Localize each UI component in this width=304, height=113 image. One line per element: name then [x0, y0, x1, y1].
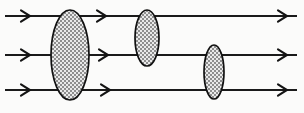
ellipse-large	[51, 10, 89, 100]
ellipse-medium	[135, 10, 159, 66]
ellipse-small	[204, 45, 224, 99]
figure-canvas	[0, 0, 304, 113]
diagram-svg	[0, 0, 304, 113]
